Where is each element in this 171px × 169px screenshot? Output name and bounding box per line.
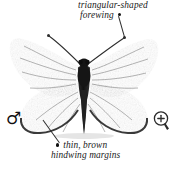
annotation-forewing-line2: forewing xyxy=(80,10,114,20)
butterfly-specimen-image xyxy=(8,22,160,140)
right-hindwing xyxy=(86,84,147,133)
annotation-hindwing-line1: thin, brown xyxy=(63,140,107,150)
figure-panel: triangular-shaped forewing thin, brown h… xyxy=(0,0,171,169)
annotation-hindwing-margins: thin, brown hindwing margins xyxy=(56,141,120,161)
left-hindwing xyxy=(21,84,82,133)
annotation-hindwing-line2: hindwing margins xyxy=(51,151,120,161)
annotation-bullet-hindwing xyxy=(56,143,59,146)
annotation-forewing-line1: triangular-shaped xyxy=(78,0,148,10)
zoom-in-icon[interactable] xyxy=(152,110,171,132)
male-sex-symbol: ♂ xyxy=(6,110,21,127)
annotation-forewing: triangular-shaped forewing xyxy=(78,1,148,21)
